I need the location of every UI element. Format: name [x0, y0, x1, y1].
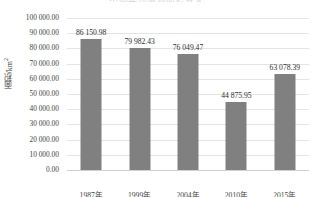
bar-value-label: 76 049.47	[173, 43, 203, 52]
bar-slot: 79 982.43	[115, 18, 163, 170]
bar-chart: 不同年份湿地面积变化 面积/km2 100 000.0090 000.0080 …	[0, 0, 313, 197]
bar-value-label: 79 982.43	[124, 37, 154, 46]
y-axis-tick-label: 10 000.00	[0, 151, 59, 159]
bar[interactable]	[177, 54, 198, 170]
y-axis-tick-label: 30 000.00	[0, 120, 59, 128]
bar-slot: 44 875.95	[212, 18, 260, 170]
bar[interactable]	[274, 74, 295, 170]
y-axis-tick-label: 70 000.00	[0, 60, 59, 68]
y-axis-tick-label: 0.00	[0, 166, 59, 174]
y-axis-tick-label: 80 000.00	[0, 44, 59, 52]
bar[interactable]	[129, 48, 150, 170]
y-axis-tick-label: 100 000.00	[0, 14, 59, 22]
gridline	[67, 170, 309, 171]
x-axis-tick-label: 1987年	[80, 191, 103, 197]
bar-slot: 76 049.47	[164, 18, 212, 170]
x-axis-tick-label: 1999年	[128, 191, 151, 197]
x-axis-tick-label: 2015年	[273, 191, 296, 197]
y-axis-tick-label: 40 000.00	[0, 105, 59, 113]
y-axis-tick-label: 20 000.00	[0, 136, 59, 144]
x-axis-tick-label: 2004年	[176, 191, 199, 197]
bar[interactable]	[81, 39, 102, 170]
bar-slot: 63 078.39	[261, 18, 309, 170]
y-axis-tick-label: 60 000.00	[0, 75, 59, 83]
bar-value-label: 86 150.98	[76, 28, 106, 37]
bar-slot: 86 150.98	[67, 18, 115, 170]
bar[interactable]	[226, 102, 247, 170]
bar-value-label: 63 078.39	[270, 63, 300, 72]
y-axis-tick-label: 90 000.00	[0, 29, 59, 37]
chart-title: 不同年份湿地面积变化	[0, 0, 313, 2]
bar-value-label: 44 875.95	[221, 91, 251, 100]
y-axis-tick-label: 50 000.00	[0, 90, 59, 98]
x-axis-tick-label: 2010年	[225, 191, 248, 197]
plot-area: 100 000.0090 000.0080 000.0070 000.0060 …	[67, 18, 309, 170]
